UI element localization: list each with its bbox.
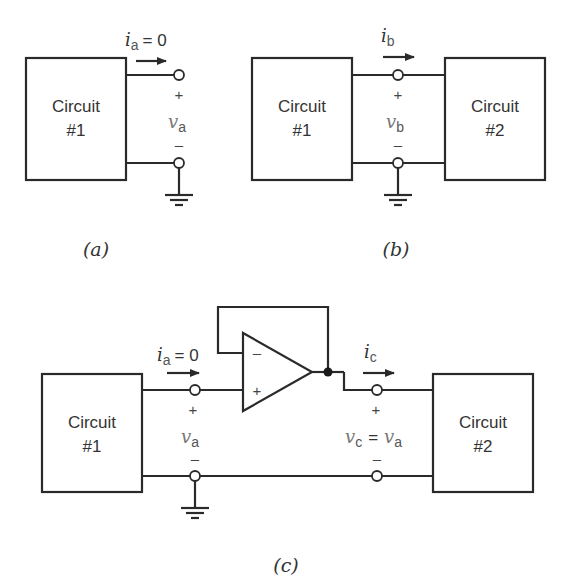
plus-sign: + bbox=[189, 401, 198, 418]
circuit-2-box bbox=[445, 58, 545, 180]
voltage-label-va: va bbox=[168, 111, 186, 135]
input-terminal-bottom bbox=[190, 471, 200, 481]
circuit-1-number: #1 bbox=[293, 121, 312, 140]
opamp-noninverting-sign: + bbox=[253, 382, 262, 399]
circuit-2-label: Circuit bbox=[471, 97, 519, 116]
circuit-2-number: #2 bbox=[486, 121, 505, 140]
circuit-1-box bbox=[252, 58, 352, 180]
junction-dot bbox=[324, 368, 333, 377]
voltage-label-va: va bbox=[181, 426, 199, 450]
opamp-inverting-sign: – bbox=[253, 344, 262, 361]
plus-sign: + bbox=[372, 401, 381, 418]
caption-c: (c) bbox=[273, 554, 298, 576]
circuit-2-label: Circuit bbox=[459, 413, 507, 432]
voltage-label-vb: vb bbox=[386, 111, 404, 135]
panel-c: Circuit #1 Circuit #2 – + bbox=[42, 307, 533, 576]
opamp-icon: – + bbox=[243, 333, 312, 411]
current-label-ic: ic bbox=[364, 341, 377, 365]
current-label-ib: ib bbox=[381, 25, 395, 49]
circuit-1-label: Circuit bbox=[278, 97, 326, 116]
voltage-label-vc-equals-va: vc=va bbox=[345, 426, 402, 450]
top-terminal bbox=[174, 70, 184, 80]
input-terminal-top bbox=[190, 385, 200, 395]
circuit-1-box bbox=[26, 58, 126, 180]
bottom-terminal bbox=[393, 158, 403, 168]
panel-a: Circuit #1 ia= 0 + va – (a) bbox=[26, 29, 193, 260]
ground-icon bbox=[165, 168, 193, 205]
minus-sign: – bbox=[175, 136, 184, 153]
ground-icon bbox=[181, 481, 209, 518]
minus-sign: – bbox=[394, 136, 403, 153]
circuit-2-box bbox=[433, 374, 533, 492]
output-terminal-bottom bbox=[372, 471, 382, 481]
circuit-1-label: Circuit bbox=[68, 413, 116, 432]
circuit-1-label: Circuit bbox=[52, 97, 100, 116]
output-terminal-top bbox=[372, 385, 382, 395]
circuit-1-box bbox=[42, 374, 142, 492]
current-label-ia: ia= 0 bbox=[157, 344, 199, 368]
ground-icon bbox=[384, 168, 412, 205]
minus-sign: – bbox=[373, 450, 382, 467]
output-step-wire bbox=[344, 372, 372, 390]
minus-sign: – bbox=[191, 450, 200, 467]
circuit-2-number: #2 bbox=[474, 437, 493, 456]
panel-b: Circuit #1 Circuit #2 ib + vb – (b) bbox=[252, 25, 545, 260]
plus-sign: + bbox=[394, 86, 403, 103]
top-terminal bbox=[393, 70, 403, 80]
bottom-terminal bbox=[174, 158, 184, 168]
caption-b: (b) bbox=[383, 238, 410, 260]
caption-a: (a) bbox=[83, 238, 109, 260]
circuit-1-number: #1 bbox=[83, 437, 102, 456]
circuit-1-number: #1 bbox=[67, 121, 86, 140]
plus-sign: + bbox=[175, 86, 184, 103]
circuit-diagram: Circuit #1 ia= 0 + va – (a) Circuit #1 bbox=[0, 0, 571, 582]
current-label-ia: ia= 0 bbox=[125, 29, 167, 53]
